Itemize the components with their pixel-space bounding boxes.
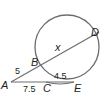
segment-label-bd: x [54, 41, 61, 53]
point-label-a: A [0, 79, 8, 91]
point-label-c: C [43, 82, 51, 94]
circle [35, 15, 99, 79]
diagram-canvas: A B C D E 5 x 7.5 4.5 [0, 0, 100, 98]
segment-label-ce: 4.5 [54, 71, 67, 81]
point-label-d: D [91, 26, 99, 38]
point-label-e: E [74, 82, 82, 94]
segment-label-ab: 5 [15, 66, 20, 76]
point-label-b: B [31, 56, 38, 68]
segment-label-ac: 7.5 [23, 84, 36, 94]
